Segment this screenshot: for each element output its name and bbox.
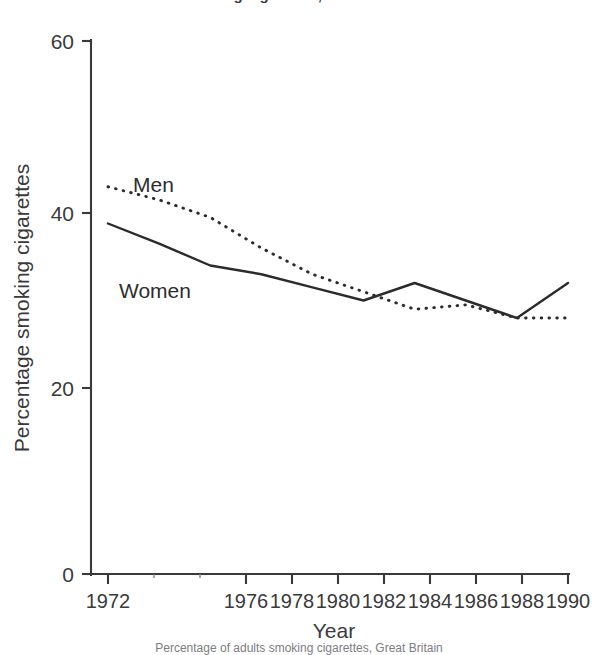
x-axis: 1972 1976 1978 1980 1982 1984 1986 1988 … <box>86 574 591 642</box>
x-axis-title: Year <box>313 619 355 642</box>
x-tick-label-1980: 1980 <box>316 590 361 612</box>
y-tick-label-0: 0 <box>62 563 74 586</box>
series-label-men: Men <box>133 173 174 196</box>
x-tick-label-1982: 1982 <box>362 590 407 612</box>
x-tick-label-1984: 1984 <box>408 590 453 612</box>
x-tick-label-1988: 1988 <box>500 590 545 612</box>
series-line-women <box>108 224 568 319</box>
y-tick-label-40: 40 <box>51 202 74 225</box>
x-tick-label-1978: 1978 <box>270 590 315 612</box>
y-tick-label-20: 20 <box>51 377 74 400</box>
x-tick-label-1990: 1990 <box>546 590 591 612</box>
figure-caption: Percentage of adults smoking cigarettes,… <box>0 641 598 655</box>
y-axis: 60 40 20 0 Percentage smoking cigarettes <box>10 30 91 586</box>
y-axis-title: Percentage smoking cigarettes <box>10 164 33 452</box>
x-tick-label-1976: 1976 <box>224 590 269 612</box>
y-tick-label-60: 60 <box>51 30 74 53</box>
x-tick-label-1986: 1986 <box>454 590 499 612</box>
series-label-women: Women <box>119 279 191 302</box>
x-tick-label-1972: 1972 <box>86 590 131 612</box>
